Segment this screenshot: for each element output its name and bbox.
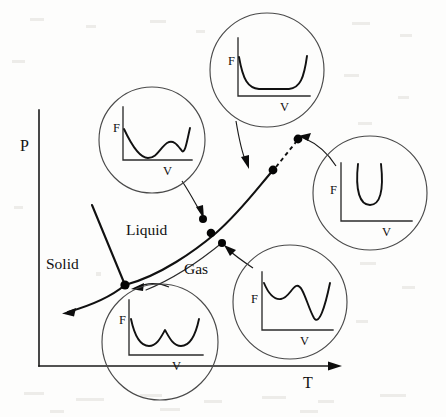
inset-gas: F V bbox=[233, 245, 347, 359]
inset-gas-free-energy-curve bbox=[264, 283, 330, 320]
inset-gas-axes bbox=[262, 272, 333, 330]
region-label-liquid: Liquid bbox=[126, 221, 168, 238]
inset-coexistence-f-label: F bbox=[228, 54, 235, 68]
inset-liquid-free-energy-curve bbox=[124, 128, 190, 158]
figure-canvas: F V F V F V F V bbox=[0, 0, 446, 417]
inset-supercritical-f-label: F bbox=[330, 183, 337, 197]
inset-supercritical-v-label: V bbox=[382, 225, 391, 239]
inset-liquid-f-label: F bbox=[113, 121, 120, 135]
phase-diagram-figure: F V F V F V F V bbox=[0, 0, 446, 417]
inset-triple-bubble bbox=[102, 284, 218, 400]
inset-coexistence-free-energy-curve bbox=[239, 56, 307, 89]
region-label-solid: Solid bbox=[46, 255, 79, 272]
inset-gas-v-label: V bbox=[300, 334, 309, 348]
pressure-axis-label: P bbox=[20, 137, 29, 154]
inset-triple-f-label: F bbox=[119, 313, 126, 327]
temperature-axis-arrowhead bbox=[328, 362, 342, 371]
inset-coexistence: F V bbox=[210, 13, 324, 127]
critical-point-marker bbox=[269, 166, 278, 175]
inset-coexistence-v-label: V bbox=[280, 100, 289, 114]
inset-liquid: F V bbox=[99, 87, 205, 193]
inset-triple-v-label: V bbox=[172, 359, 181, 373]
sublimation-curve bbox=[68, 285, 125, 312]
sublimation-curve-end bbox=[62, 308, 76, 317]
phase-boundary-group bbox=[62, 142, 296, 317]
inset-gas-f-label: F bbox=[251, 292, 258, 306]
inset-coexistence-bubble bbox=[210, 13, 324, 127]
inset-supercritical: F V bbox=[313, 136, 427, 250]
supercritical-dashed-extension bbox=[276, 142, 296, 167]
temperature-axis-label: T bbox=[303, 374, 313, 391]
triple-point-marker bbox=[120, 280, 129, 289]
inset-liquid-bubble bbox=[99, 87, 205, 193]
inset-triple: F V bbox=[102, 284, 218, 400]
leader-line-coexistence bbox=[236, 121, 246, 162]
inset-supercritical-axes bbox=[341, 163, 412, 221]
inset-supercritical-free-energy-curve bbox=[357, 164, 382, 205]
region-label-gas: Gas bbox=[184, 260, 208, 277]
inset-coexistence-axes bbox=[238, 38, 310, 96]
axes-group bbox=[39, 110, 342, 371]
leader-line-group bbox=[131, 121, 336, 291]
leader-arrowhead-coexistence bbox=[241, 155, 249, 169]
coexistence-state-point-marker bbox=[207, 229, 216, 238]
inset-triple-free-energy-curve bbox=[131, 319, 199, 346]
scan-artifacts bbox=[12, 18, 415, 413]
inset-triple-axes bbox=[129, 300, 203, 355]
inset-liquid-v-label: V bbox=[163, 164, 172, 178]
